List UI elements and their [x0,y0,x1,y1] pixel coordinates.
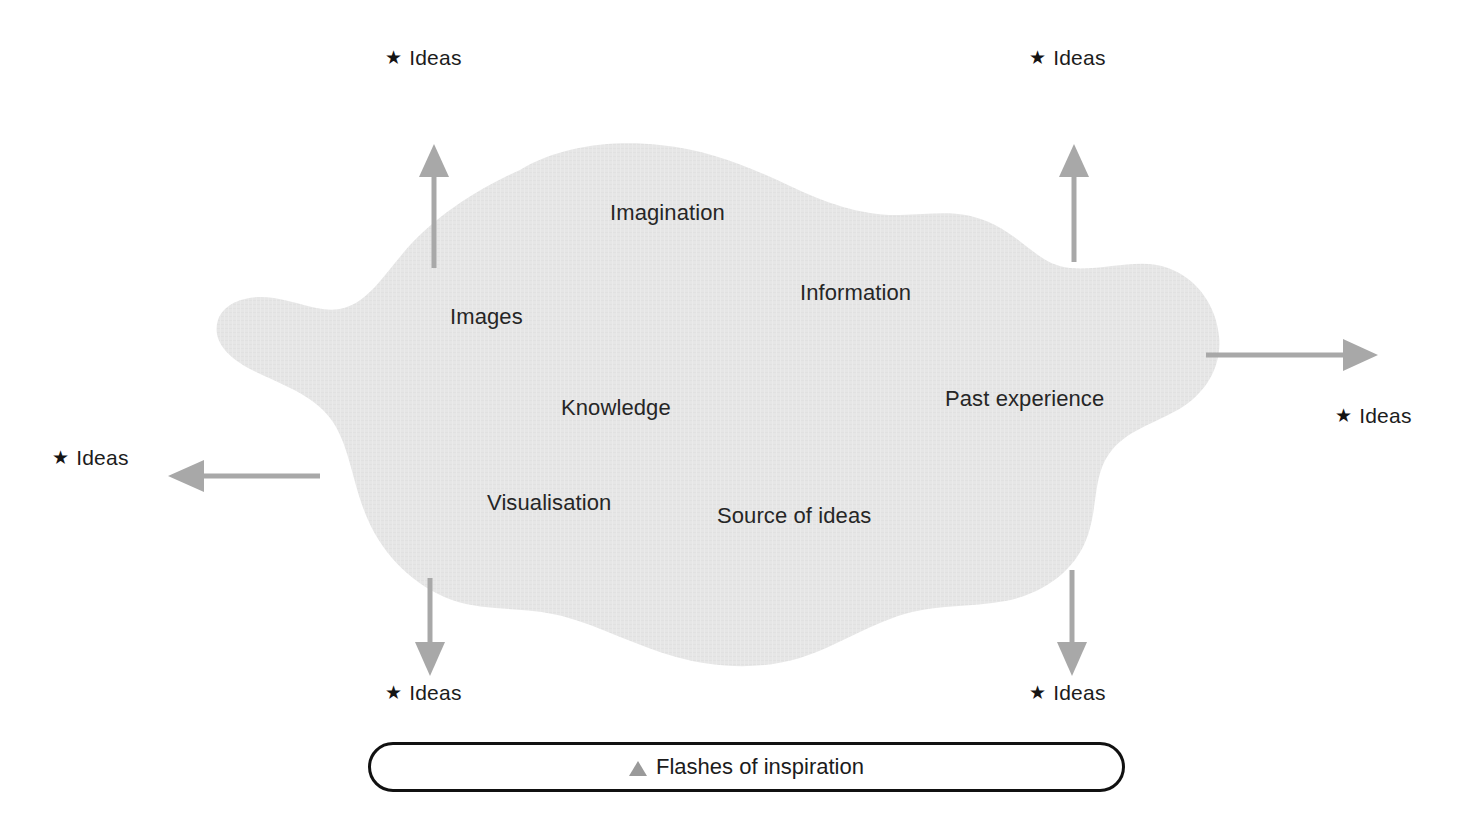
cloud-label-imagination: Imagination [610,200,725,226]
ideas-label-text: Ideas [409,681,461,704]
diagram-canvas: Imagination Images Information Knowledge… [0,0,1465,832]
cloud-label-information: Information [800,280,911,306]
ideas-label-top-left: ★Ideas [385,46,462,70]
arrow-left [168,460,320,492]
diagram-graphics [0,0,1465,832]
ideas-label-right: ★Ideas [1335,404,1412,428]
cloud-label-knowledge: Knowledge [561,395,671,421]
arrow-right [1206,339,1378,371]
star-icon: ★ [1029,681,1046,704]
cloud-label-visualisation: Visualisation [487,490,611,516]
star-icon: ★ [385,46,402,69]
cloud-label-source-of-ideas: Source of ideas [717,503,871,529]
legend-label: Flashes of inspiration [656,754,864,780]
triangle-icon [629,761,647,776]
arrow-down-right [1057,570,1087,676]
ideas-label-text: Ideas [76,446,128,469]
ideas-label-text: Ideas [1359,404,1411,427]
cloud-label-images: Images [450,304,523,330]
ideas-label-left: ★Ideas [52,446,129,470]
star-icon: ★ [1029,46,1046,69]
ideas-label-text: Ideas [1053,681,1105,704]
ideas-label-bottom-left: ★Ideas [385,681,462,705]
star-icon: ★ [1335,404,1352,427]
ideas-label-text: Ideas [409,46,461,69]
flashes-of-inspiration-legend: Flashes of inspiration [368,742,1125,792]
legend-content: Flashes of inspiration [629,754,864,780]
cloud-label-past-experience: Past experience [945,386,1104,412]
ideas-label-text: Ideas [1053,46,1105,69]
star-icon: ★ [385,681,402,704]
arrow-up-right [1059,144,1089,262]
ideas-label-bottom-right: ★Ideas [1029,681,1106,705]
star-icon: ★ [52,446,69,469]
ideas-label-top-right: ★Ideas [1029,46,1106,70]
